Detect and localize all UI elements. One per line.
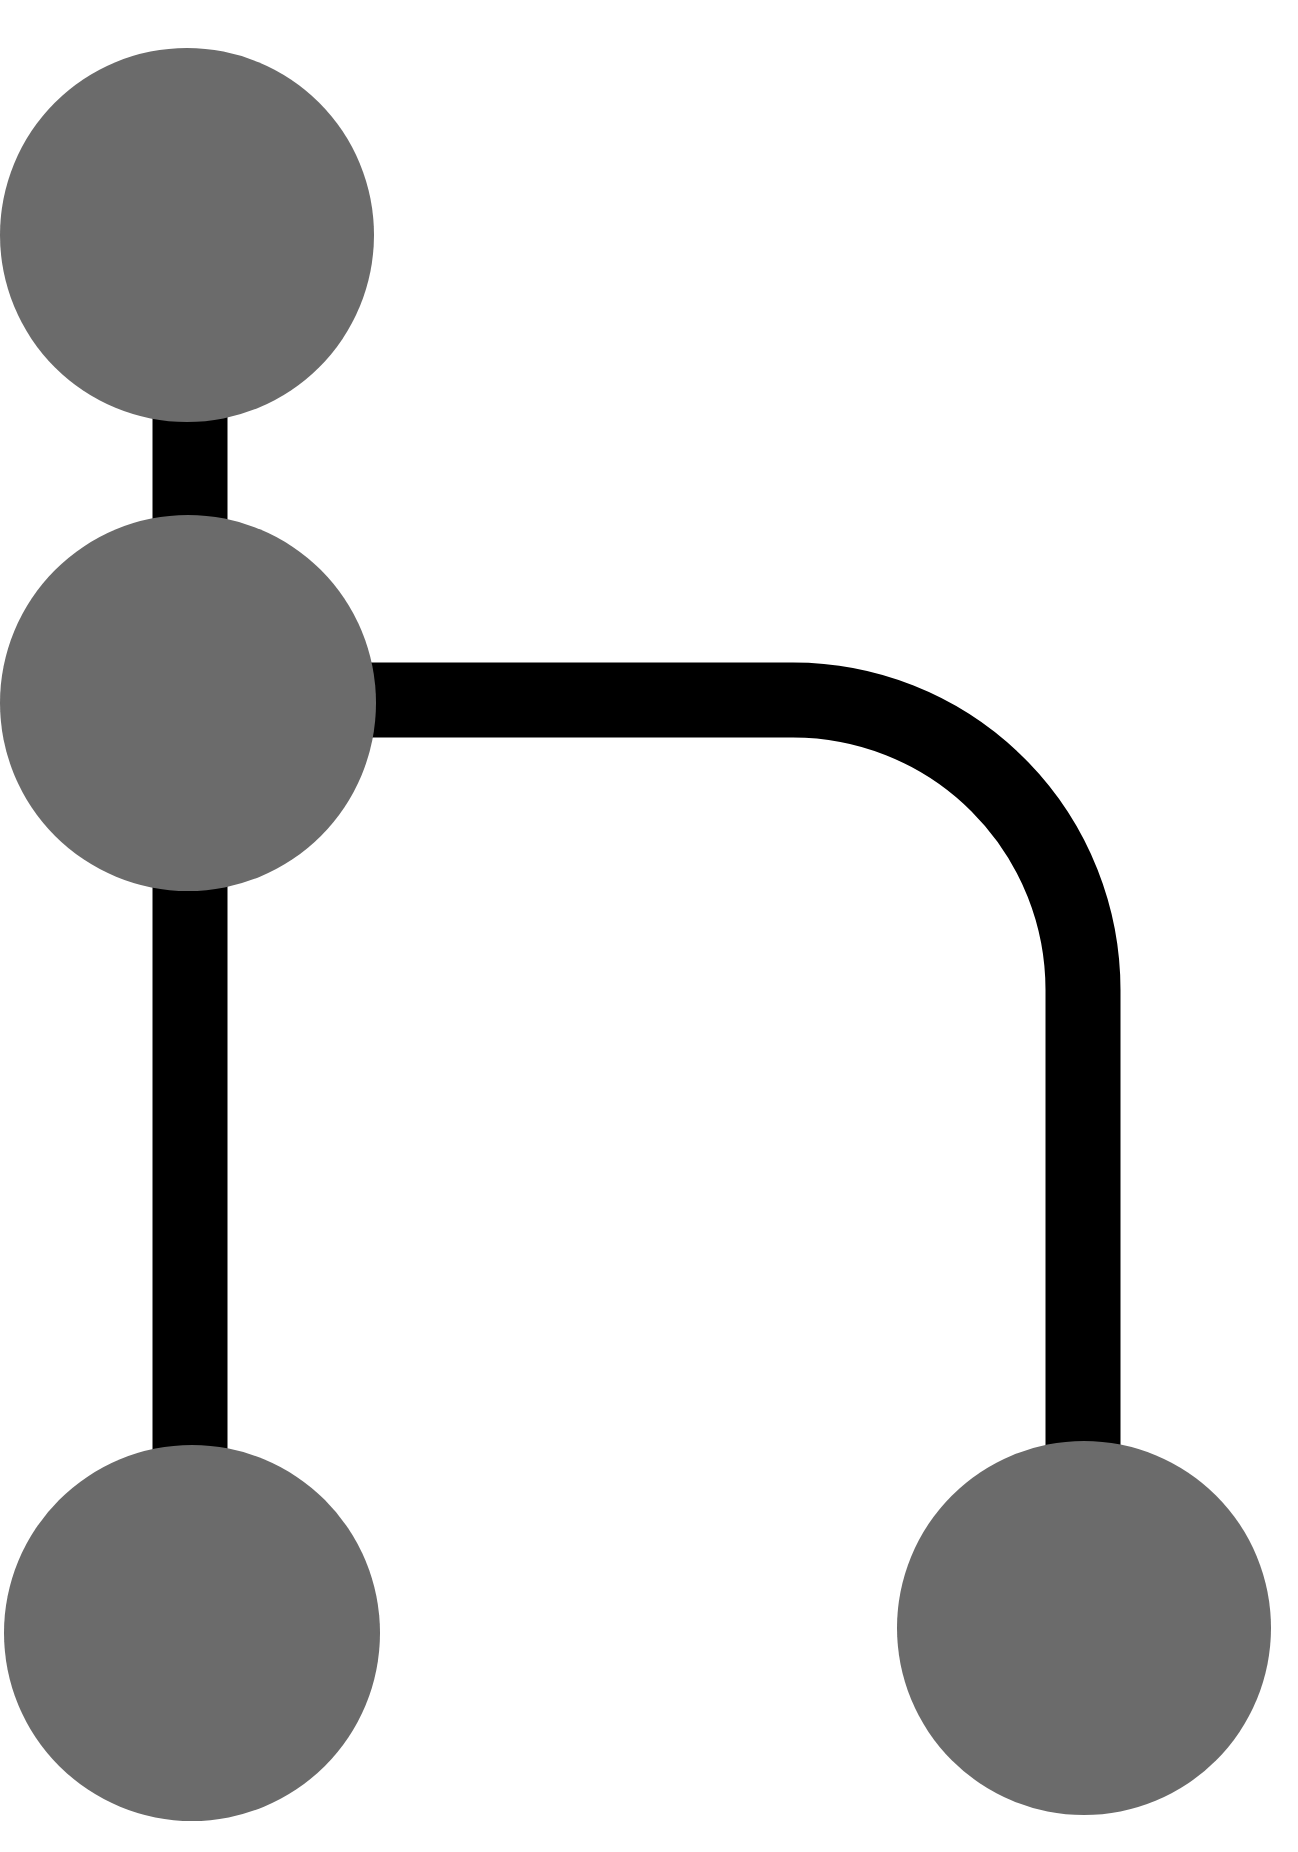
commit-node-main-bottom[interactable] xyxy=(4,1445,380,1821)
commit-node-branch-bottom[interactable] xyxy=(897,1441,1271,1815)
commit-node-branch-point[interactable] xyxy=(0,515,376,891)
branch-diagram xyxy=(0,0,1298,1852)
commit-node-top[interactable] xyxy=(0,48,374,422)
